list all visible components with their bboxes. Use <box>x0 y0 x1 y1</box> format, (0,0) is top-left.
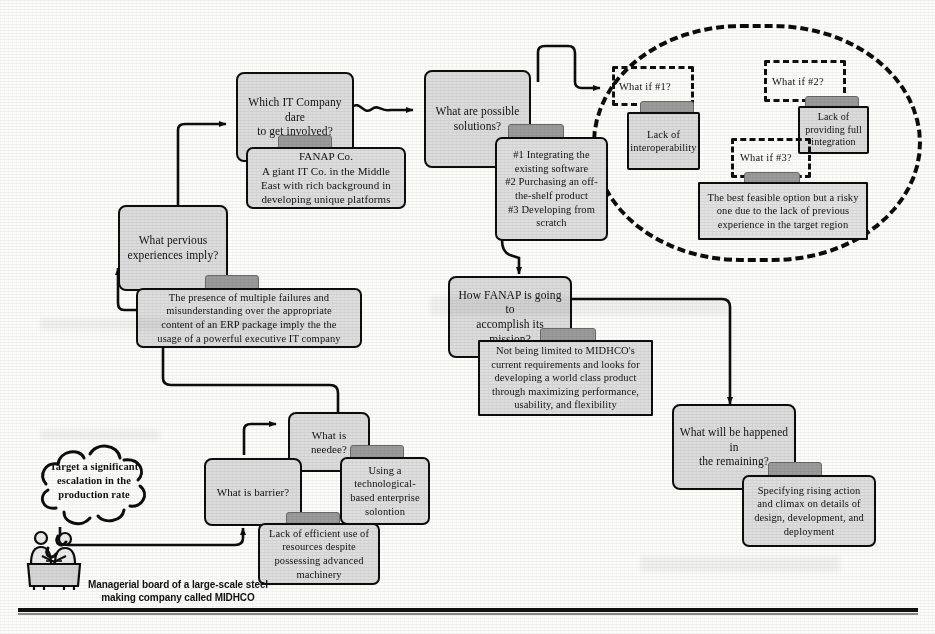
note-fanap-text: FANAP Co. A giant IT Co. in the Middle E… <box>261 149 391 206</box>
diagram-canvas: Which IT Company dare to get involved? F… <box>0 0 935 634</box>
note-best-option-text: The best feasible option but a risky one… <box>707 191 858 232</box>
bottom-rule <box>18 608 918 612</box>
note-fanap[interactable]: FANAP Co. A giant IT Co. in the Middle E… <box>246 147 406 209</box>
note-remaining[interactable]: Specifying rising action and climax on d… <box>742 475 876 547</box>
bottom-rule-shadow <box>18 613 918 615</box>
thought-cloud-text: Target a significant escalation in the p… <box>34 460 154 503</box>
note-best-option[interactable]: The best feasible option but a risky one… <box>698 182 868 240</box>
label-what-if-3: What if #3? <box>740 152 792 163</box>
note-fanap-mission-text: Not being limited to MIDHCO's current re… <box>491 344 640 412</box>
note-solutions-list[interactable]: #1 Integrating the existing software #2 … <box>495 137 608 241</box>
thought-cloud: Target a significant escalation in the p… <box>24 438 164 534</box>
edge-pervious-to-company <box>178 124 226 216</box>
edge-company-to-solutions <box>352 105 413 111</box>
note-pervious[interactable]: The presence of multiple failures and mi… <box>136 288 362 348</box>
node-possible-solutions-label: What are possible solutions? <box>435 104 519 133</box>
node-what-pervious-label: What pervious experiences imply? <box>128 233 219 262</box>
note-barrier[interactable]: Lack of efficient use of resources despi… <box>258 523 380 585</box>
note-pervious-text: The presence of multiple failures and mi… <box>157 291 340 346</box>
edge-barrier-to-needee <box>244 424 276 455</box>
caption-midhco: Managerial board of a large-scale steel … <box>58 578 298 604</box>
node-which-it-company-label: Which IT Company dare to get involved? <box>243 95 347 139</box>
note-fanap-mission[interactable]: Not being limited to MIDHCO's current re… <box>478 340 653 416</box>
node-what-is-barrier-label: What is barrier? <box>217 485 289 499</box>
node-lack-integration-label: Lack of providing full integration <box>805 111 862 149</box>
edge-solutions-to-howfanap <box>502 240 519 274</box>
note-needee-text: Using a technological- based enterprise … <box>350 464 420 519</box>
edge-solutions-to-whatif1 <box>538 46 600 88</box>
note-remaining-text: Specifying rising action and climax on d… <box>754 484 864 539</box>
note-solutions-list-text: #1 Integrating the existing software #2 … <box>505 148 598 230</box>
label-what-if-2: What if #2? <box>772 76 824 87</box>
node-lack-interoperability-label: Lack of interoperability <box>630 128 696 155</box>
label-what-if-1: What if #1? <box>619 81 671 92</box>
note-needee[interactable]: Using a technological- based enterprise … <box>340 457 430 525</box>
edge-pervious-note-down <box>163 345 338 412</box>
note-barrier-text: Lack of efficient use of resources despi… <box>269 527 369 582</box>
node-lack-interoperability[interactable]: Lack of interoperability <box>627 112 700 170</box>
